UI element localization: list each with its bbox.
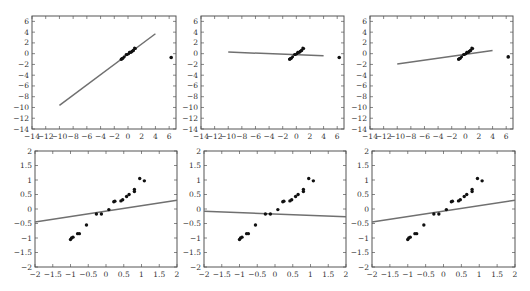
data-point bbox=[422, 223, 425, 226]
x-tick-label: 0 bbox=[441, 270, 446, 279]
y-tick-label: 0.5 bbox=[357, 190, 369, 199]
y-tick-label: −0.5 bbox=[351, 219, 369, 228]
x-tick-label: −0.5 bbox=[417, 270, 435, 279]
y-tick-label: 1.5 bbox=[357, 161, 369, 170]
x-tick-label: 1 bbox=[477, 270, 482, 279]
data-point bbox=[476, 177, 479, 180]
y-tick-label: −1.5 bbox=[351, 248, 369, 257]
data-point bbox=[437, 212, 440, 215]
x-tick-label: −1.5 bbox=[381, 270, 399, 279]
data-point bbox=[465, 193, 468, 196]
data-point bbox=[470, 188, 473, 191]
data-point bbox=[451, 199, 454, 202]
data-point bbox=[445, 208, 448, 211]
x-tick-label: 0.5 bbox=[455, 270, 467, 279]
x-tick-label: 2 bbox=[513, 270, 518, 279]
y-tick-label: 2 bbox=[364, 147, 369, 156]
y-tick-label: 1 bbox=[364, 176, 369, 185]
chart-panel-6: −2−1.5−1−0.500.511.5221.510.50−0.5−1−1.5… bbox=[0, 0, 530, 291]
y-tick-label: −1 bbox=[358, 234, 369, 243]
y-tick-label: 0 bbox=[364, 205, 369, 214]
data-point bbox=[432, 212, 435, 215]
data-point bbox=[459, 198, 462, 201]
data-point bbox=[409, 235, 412, 238]
fit-line bbox=[372, 200, 515, 222]
data-point bbox=[415, 232, 418, 235]
y-tick-label: −2 bbox=[358, 263, 369, 272]
x-tick-label: −1 bbox=[402, 270, 413, 279]
x-tick-label: 1.5 bbox=[491, 270, 503, 279]
data-point bbox=[480, 179, 483, 182]
plot-frame bbox=[372, 151, 515, 267]
